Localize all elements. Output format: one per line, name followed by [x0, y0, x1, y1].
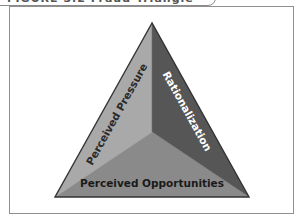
label-perceived-opportunities: Perceived Opportunities [80, 177, 224, 189]
fraud-triangle-diagram: Perceived Pressure Rationalization Perce… [0, 0, 302, 220]
